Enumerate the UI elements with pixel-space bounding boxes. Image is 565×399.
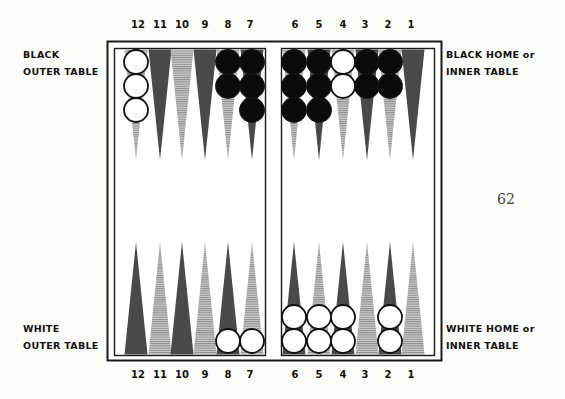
- black-checker[interactable]: [307, 74, 331, 98]
- black-checker[interactable]: [378, 74, 402, 98]
- white-checker[interactable]: [331, 74, 355, 98]
- white-checker[interactable]: [124, 74, 148, 98]
- black-checker[interactable]: [282, 98, 306, 122]
- white-checker[interactable]: [378, 329, 402, 353]
- white-checker[interactable]: [331, 305, 355, 329]
- black-checker[interactable]: [378, 50, 402, 74]
- black-checker[interactable]: [307, 50, 331, 74]
- black-checker[interactable]: [282, 50, 306, 74]
- white-checker[interactable]: [307, 305, 331, 329]
- black-checker[interactable]: [307, 98, 331, 122]
- white-checker[interactable]: [124, 50, 148, 74]
- black-checker[interactable]: [240, 74, 264, 98]
- white-checker[interactable]: [378, 305, 402, 329]
- white-checker[interactable]: [331, 50, 355, 74]
- black-checker[interactable]: [355, 50, 379, 74]
- white-checker[interactable]: [331, 329, 355, 353]
- white-checker[interactable]: [307, 329, 331, 353]
- white-checker[interactable]: [240, 329, 264, 353]
- white-checker[interactable]: [282, 305, 306, 329]
- black-checker[interactable]: [216, 74, 240, 98]
- white-checker[interactable]: [124, 98, 148, 122]
- black-checker[interactable]: [240, 50, 264, 74]
- white-checker[interactable]: [216, 329, 240, 353]
- black-checker[interactable]: [216, 50, 240, 74]
- backgammon-board: [0, 0, 565, 399]
- black-checker[interactable]: [240, 98, 264, 122]
- black-checker[interactable]: [355, 74, 379, 98]
- black-checker[interactable]: [282, 74, 306, 98]
- white-checker[interactable]: [282, 329, 306, 353]
